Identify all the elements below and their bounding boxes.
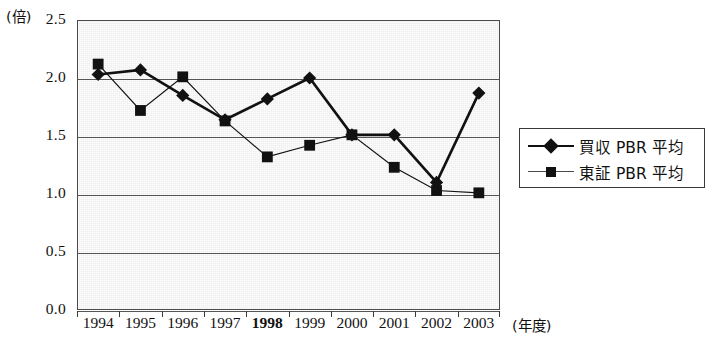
y-axis-tick-label: 0.5 — [10, 242, 66, 260]
series-line — [98, 70, 479, 183]
x-axis-tick-label: 1996 — [160, 314, 206, 332]
x-axis-tick-label: 2000 — [329, 314, 375, 332]
x-axis-tick-label: 1994 — [75, 314, 121, 332]
y-axis-tick-label: 2.5 — [10, 10, 66, 28]
pbr-line-chart: (倍) 2.52.01.51.00.50.0 19941995199619971… — [0, 0, 724, 345]
data-point-square — [220, 116, 231, 127]
x-axis-tick-label: 2002 — [414, 314, 460, 332]
y-axis-tick-label: 2.0 — [10, 68, 66, 86]
x-axis-tick — [415, 311, 416, 317]
x-axis-tick-label: 1997 — [202, 314, 248, 332]
x-axis-tick-label: 1995 — [117, 314, 163, 332]
data-point-square — [431, 185, 442, 196]
data-point-square — [177, 71, 188, 82]
square-marker-icon — [528, 165, 574, 179]
legend-label-0: 買収 PBR 平均 — [579, 135, 684, 157]
x-axis-tick — [499, 311, 500, 317]
data-point-diamond — [134, 63, 147, 76]
data-point-square — [93, 59, 104, 70]
data-point-diamond — [472, 86, 485, 99]
x-axis-tick — [162, 311, 163, 317]
y-axis-tick-label: 1.0 — [10, 184, 66, 202]
data-point-square — [347, 129, 358, 140]
series-line — [98, 64, 479, 193]
data-point-diamond — [176, 89, 189, 102]
series-square — [93, 59, 485, 199]
x-axis-tick — [331, 311, 332, 317]
series-layer — [77, 20, 500, 310]
legend-item-0: 買収 PBR 平均 — [528, 133, 684, 158]
x-axis-tick — [246, 311, 247, 317]
data-point-square — [473, 187, 484, 198]
chart-legend: 買収 PBR 平均 東証 PBR 平均 — [519, 128, 705, 188]
data-point-square — [389, 162, 400, 173]
x-axis-title: (年度) — [512, 314, 551, 335]
series-diamond — [92, 63, 486, 189]
x-axis-tick-label: 1998 — [244, 314, 290, 332]
x-axis-tick-label: 2001 — [371, 314, 417, 332]
legend-label-1: 東証 PBR 平均 — [579, 161, 684, 183]
x-axis-tick — [119, 311, 120, 317]
data-point-square — [262, 151, 273, 162]
y-axis-tick-label: 0.0 — [10, 300, 66, 318]
y-axis-tick-label: 1.5 — [10, 126, 66, 144]
diamond-marker-icon — [528, 139, 574, 153]
x-axis-tick-label: 1999 — [287, 314, 333, 332]
x-axis-tick — [373, 311, 374, 317]
data-point-square — [304, 140, 315, 151]
data-point-diamond — [261, 92, 274, 105]
data-point-square — [135, 105, 146, 116]
x-axis-tick — [289, 311, 290, 317]
x-axis-tick — [77, 311, 78, 317]
legend-item-1: 東証 PBR 平均 — [528, 159, 684, 184]
x-axis-tick-label: 2003 — [456, 314, 502, 332]
x-axis-tick — [204, 311, 205, 317]
x-axis-tick — [458, 311, 459, 317]
